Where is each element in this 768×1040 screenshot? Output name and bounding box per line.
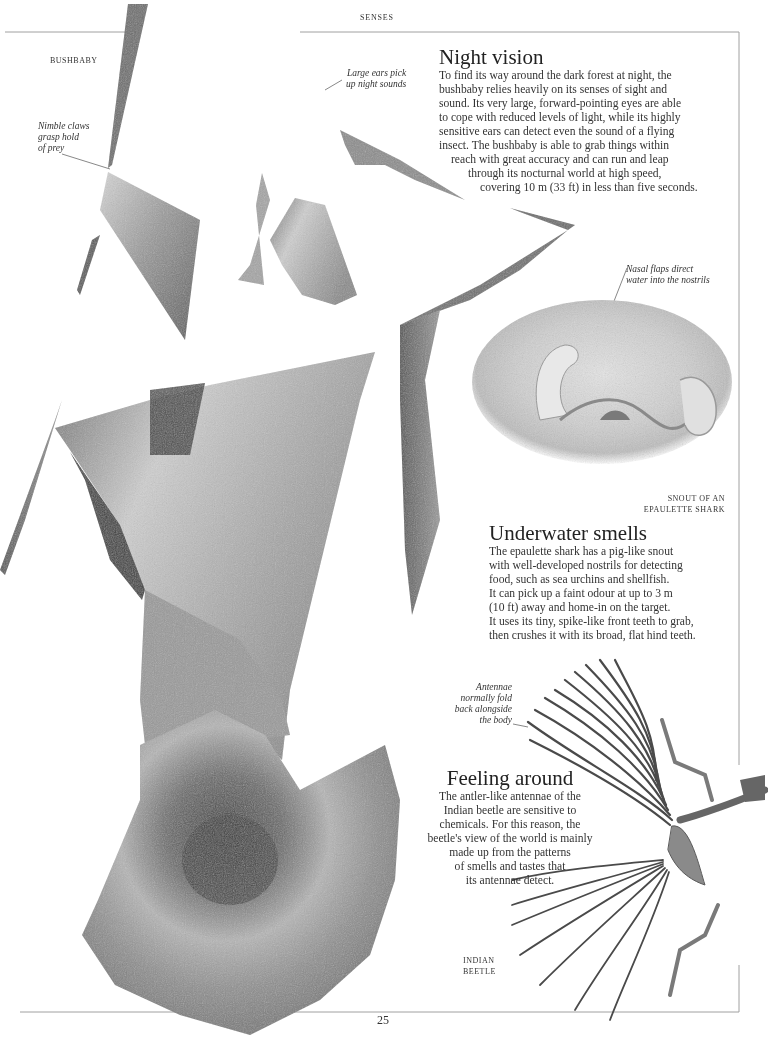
feeling-around-title: Feeling around [410, 766, 610, 790]
night-vision-body: To find its way around the dark forest a… [439, 69, 698, 195]
bushbaby-label: BUSHBABY [50, 55, 98, 66]
underwater-smells-title: Underwater smells [489, 521, 647, 545]
running-head: SENSES [360, 13, 394, 22]
feeling-around-body: The antler-like antennae of the Indian b… [410, 790, 610, 888]
ears-annotation: Large ears pick up night sounds [346, 68, 406, 90]
shark-label: SNOUT OF AN EPAULETTE SHARK [630, 493, 725, 515]
shark-snout-photo [472, 300, 732, 464]
night-vision-title: Night vision [439, 45, 543, 69]
nasal-flaps-annotation: Nasal flaps direct water into the nostri… [626, 264, 710, 286]
underwater-smells-body: The epaulette shark has a pig-like snout… [489, 545, 696, 643]
claws-annotation: Nimble claws grasp hold of prey [38, 121, 89, 154]
beetle-label: INDIAN BEETLE [463, 955, 496, 977]
page-number: 25 [377, 1013, 389, 1028]
night-vision-section: Night vision [439, 45, 543, 69]
antennae-annotation: Antennae normally fold back alongside th… [440, 682, 512, 726]
